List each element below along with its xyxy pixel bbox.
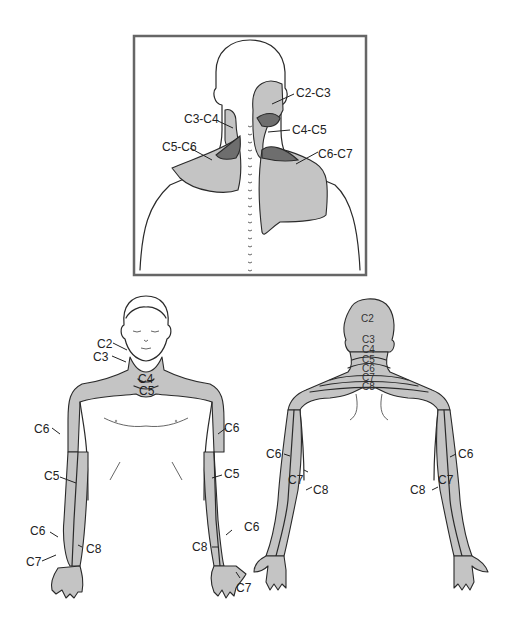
back-label-c8: C8 [362, 381, 375, 392]
anterior-view: C2 C3 C4 C5 C6 C6 C5 C5 C6 C6 C7 C7 C8 C… [26, 296, 260, 598]
front-label-c5-right-arm: C5 [224, 467, 240, 481]
inset-panel: C2-C3 C3-C4 C4-C5 C5-C6 C6-C7 [134, 36, 366, 275]
back-right-hand [454, 556, 488, 590]
dermatome-figure: C2-C3 C3-C4 C4-C5 C5-C6 C6-C7 [0, 0, 514, 623]
front-label-c5: C5 [139, 384, 155, 398]
label-c6-c7: C6-C7 [318, 147, 353, 161]
front-label-c2: C2 [97, 337, 113, 351]
front-head [121, 296, 171, 361]
back-label-c6-left-arm: C6 [266, 447, 282, 461]
label-c3-c4: C3-C4 [184, 112, 219, 126]
back-label-c7-right-arm: C7 [438, 473, 454, 487]
back-left-hand [254, 556, 286, 590]
front-label-c6-right-hand: C6 [244, 520, 260, 534]
back-label-c8-left-arm: C8 [313, 483, 329, 497]
front-label-c8-right-hand: C8 [192, 540, 208, 554]
front-label-c3: C3 [93, 350, 109, 364]
front-label-c7-left-hand: C7 [26, 555, 42, 569]
front-label-c6-right: C6 [224, 421, 240, 435]
label-c5-c6: C5-C6 [162, 140, 197, 154]
front-label-c8-left-hand: C8 [86, 542, 102, 556]
front-label-c5-left-arm: C5 [44, 469, 60, 483]
front-label-c6-left-hand: C6 [30, 524, 46, 538]
back-label-c6-right-arm: C6 [458, 447, 474, 461]
posterior-view: C2 C3 C4 C5 C6 C7 C8 C6 C7 C8 C6 C7 C8 [254, 299, 488, 590]
back-label-c7-left-arm: C7 [288, 473, 304, 487]
front-left-arm-zone [63, 452, 88, 566]
back-label-c8-right-arm: C8 [410, 483, 426, 497]
front-label-c7-right-hand: C7 [236, 581, 252, 595]
front-label-c6-left: C6 [34, 422, 50, 436]
label-c2-c3: C2-C3 [296, 86, 331, 100]
label-c4-c5: C4-C5 [292, 123, 327, 137]
back-label-c2: C2 [361, 313, 374, 324]
front-left-hand [51, 566, 82, 598]
